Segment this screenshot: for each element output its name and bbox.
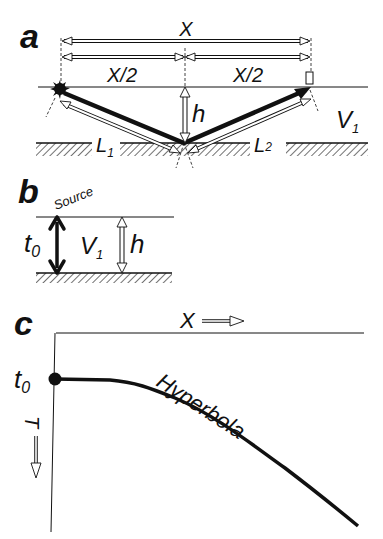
panel-a: a X X/2 X/2	[20, 17, 368, 168]
panel-b: b Source t0 V1 h	[18, 172, 174, 283]
panel-c: c X t0 T Hyperbola	[14, 304, 364, 532]
source-label: Source	[52, 183, 96, 212]
velocity-label-b: V1	[80, 232, 103, 262]
seismic-reflection-diagram: a X X/2 X/2	[0, 0, 383, 539]
receiver-icon	[306, 72, 313, 84]
curve-label: Hyperbola	[152, 368, 250, 444]
t-axis	[51, 333, 55, 532]
path2-label: L2	[254, 134, 272, 156]
depth-label-b: h	[130, 229, 144, 259]
x-label: X	[178, 18, 193, 40]
half-left-label: X/2	[106, 64, 137, 86]
x-direction-arrow	[202, 316, 244, 326]
depth-label: h	[192, 100, 205, 127]
panel-letter-c: c	[14, 304, 33, 342]
t0-axis-label: t0	[14, 364, 30, 396]
panel-letter-b: b	[18, 172, 39, 210]
t-axis-label: T	[21, 416, 43, 430]
depth-arrow-b	[117, 217, 127, 273]
depth-arrow	[180, 87, 190, 143]
panel-letter-a: a	[20, 17, 39, 55]
x-axis-label: X	[179, 308, 196, 333]
velocity-label: V1	[336, 106, 359, 136]
t0-arrow	[50, 217, 64, 273]
t-direction-arrow	[31, 436, 41, 478]
t0-point	[49, 373, 62, 386]
half-right-arrow	[185, 53, 310, 61]
half-left-arrow	[62, 53, 185, 61]
t0-label: t0	[24, 228, 40, 260]
half-right-label: X/2	[232, 64, 263, 86]
